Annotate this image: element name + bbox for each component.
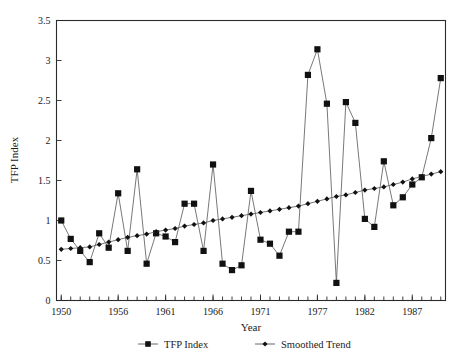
data-point-marker bbox=[333, 280, 339, 286]
data-point-marker bbox=[115, 190, 121, 196]
data-point-marker bbox=[219, 261, 225, 267]
data-point-marker bbox=[68, 236, 74, 242]
data-point-marker bbox=[400, 194, 406, 200]
data-point-marker bbox=[428, 135, 434, 141]
data-point-marker bbox=[229, 267, 235, 273]
data-point-marker bbox=[125, 248, 131, 254]
data-point-marker bbox=[96, 230, 102, 236]
data-point-marker bbox=[381, 158, 387, 164]
data-point-marker bbox=[134, 166, 140, 172]
tfp-index-chart: 00.511.522.533.5 19501956196119661971197… bbox=[0, 0, 462, 361]
x-tick-label: 1961 bbox=[156, 306, 176, 317]
y-tick-label: 1 bbox=[46, 215, 51, 226]
y-tick-label: 2 bbox=[46, 135, 51, 146]
y-tick-label: 0.5 bbox=[38, 255, 51, 266]
data-point-marker bbox=[238, 262, 244, 268]
x-tick-label: 1977 bbox=[307, 306, 327, 317]
y-tick-label: 3 bbox=[46, 55, 51, 66]
y-axis-title: TFP Index bbox=[8, 136, 20, 183]
data-point-marker bbox=[163, 233, 169, 239]
x-tick-label: 1966 bbox=[203, 306, 223, 317]
x-tick-label: 1982 bbox=[355, 306, 375, 317]
y-tick-label: 2.5 bbox=[38, 95, 51, 106]
data-point-marker bbox=[362, 216, 368, 222]
data-point-marker bbox=[295, 229, 301, 235]
y-tick-label: 3.5 bbox=[38, 15, 51, 26]
data-point-marker bbox=[314, 46, 320, 52]
data-point-marker bbox=[87, 259, 93, 265]
data-point-marker bbox=[58, 217, 64, 223]
x-tick-label: 1950 bbox=[51, 306, 71, 317]
data-point-marker bbox=[352, 120, 358, 126]
data-point-marker bbox=[305, 72, 311, 78]
data-point-marker bbox=[257, 237, 263, 243]
data-point-marker bbox=[390, 202, 396, 208]
y-tick-label: 0 bbox=[46, 295, 51, 306]
y-tick-label: 1.5 bbox=[38, 175, 51, 186]
data-point-marker bbox=[267, 241, 273, 247]
x-tick-label: 1987 bbox=[402, 306, 422, 317]
data-point-marker bbox=[409, 181, 415, 187]
data-point-marker bbox=[438, 75, 444, 81]
x-tick-label: 1971 bbox=[250, 306, 270, 317]
data-point-marker bbox=[324, 101, 330, 107]
data-point-marker bbox=[181, 201, 187, 207]
data-point-marker bbox=[200, 248, 206, 254]
data-point-marker bbox=[191, 201, 197, 207]
x-axis-title: Year bbox=[241, 321, 262, 333]
legend-label: Smoothed Trend bbox=[281, 339, 351, 350]
data-point-marker bbox=[172, 239, 178, 245]
data-point-marker bbox=[371, 224, 377, 230]
data-point-marker bbox=[276, 253, 282, 259]
data-point-marker bbox=[144, 261, 150, 267]
data-point-marker bbox=[286, 229, 292, 235]
data-point-marker bbox=[343, 99, 349, 105]
legend-marker-square bbox=[145, 341, 151, 347]
data-point-marker bbox=[248, 188, 254, 194]
x-tick-label: 1956 bbox=[108, 306, 128, 317]
data-point-marker bbox=[210, 161, 216, 167]
legend-label: TFP Index bbox=[164, 339, 209, 350]
data-point-marker bbox=[106, 245, 112, 251]
